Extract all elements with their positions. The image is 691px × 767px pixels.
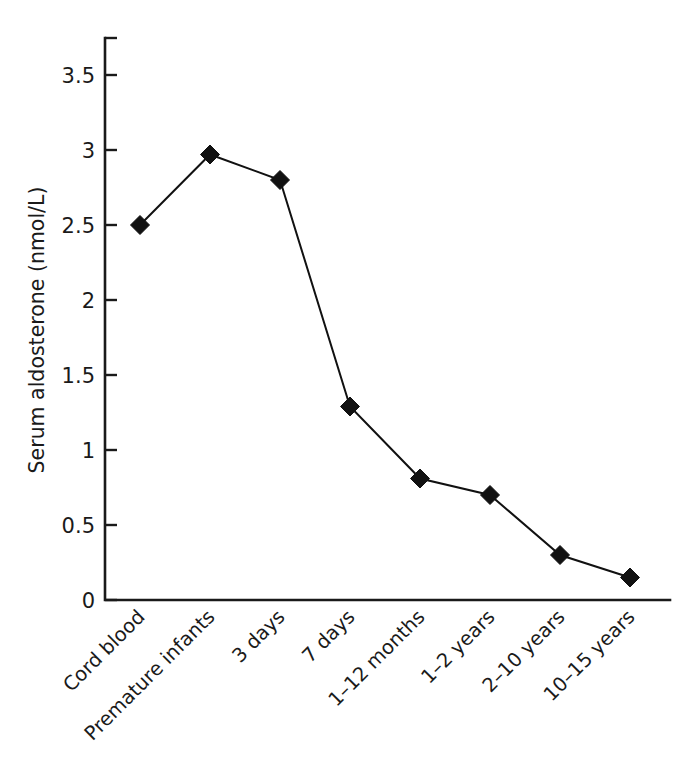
y-tick-label-0.5: 0.5 — [62, 514, 95, 538]
x-tick-label: 3 days — [228, 605, 290, 667]
data-point-markers — [131, 145, 640, 587]
y-tick-label-3: 3 — [82, 139, 95, 163]
y-tick-label-2.5: 2.5 — [62, 214, 95, 238]
chart-canvas: Serum aldosterone (nmol/L) 0 0.5 1 1.5 2… — [0, 0, 691, 767]
y-tick-label-0: 0 — [82, 589, 95, 613]
axis-spines — [105, 38, 670, 600]
y-tick-marks — [105, 38, 117, 600]
x-tick-label: 7 days — [298, 605, 360, 667]
data-series-line — [140, 155, 630, 578]
data-point-marker — [271, 171, 290, 190]
x-tick-label: Premature infants — [80, 605, 220, 745]
y-tick-label-1.5: 1.5 — [62, 364, 95, 388]
y-tick-labels: 0 0.5 1 1.5 2 2.5 3 3.5 — [62, 64, 95, 613]
y-tick-label-3.5: 3.5 — [62, 64, 95, 88]
y-tick-label-1: 1 — [82, 439, 95, 463]
aldosterone-line-chart-figure: Serum aldosterone (nmol/L) 0 0.5 1 1.5 2… — [0, 0, 691, 767]
x-tick-labels: Cord bloodPremature infants3 days7 days1… — [58, 605, 639, 745]
data-point-marker — [621, 568, 640, 587]
y-tick-label-2: 2 — [82, 289, 95, 313]
y-axis-label: Serum aldosterone (nmol/L) — [25, 187, 49, 474]
